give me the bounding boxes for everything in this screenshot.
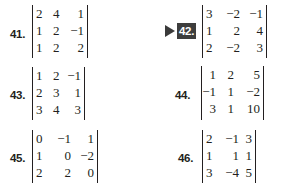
- matrix-cell: −1: [70, 22, 84, 40]
- matrix-cell: 10: [247, 100, 260, 118]
- matrix-row: 1 1 1: [203, 147, 255, 165]
- matrix-cell: −4: [225, 164, 239, 182]
- matrix-cell: 2: [228, 66, 235, 84]
- matrix-row: 2 2 0: [33, 164, 97, 182]
- problem-number: 46.: [178, 152, 193, 164]
- matrix-cell: 0: [65, 147, 72, 165]
- matrix-row: 2 4 1: [33, 5, 87, 23]
- matrix-cell: 2: [206, 130, 213, 148]
- determinant-matrix: 0 −1 1 1 0 −2 2 2 0: [32, 130, 98, 183]
- matrix-cell: 3: [246, 130, 253, 148]
- matrix-cell: 1: [246, 147, 253, 165]
- determinant-matrix: 2 4 1 1 2 −1 1 2 2: [32, 5, 88, 58]
- matrix-row: 3 −2 −1: [203, 5, 266, 23]
- matrix-row: 3 1 10: [202, 100, 263, 118]
- matrix-cell: 2: [206, 39, 213, 57]
- matrix-cell: 1: [206, 147, 213, 165]
- matrix-cell: 3: [206, 164, 213, 182]
- matrix-cell: 5: [254, 66, 261, 84]
- matrix-cell: 1: [36, 39, 43, 57]
- matrix-cell: −1: [57, 130, 71, 148]
- matrix-cell: 2: [53, 67, 60, 85]
- matrix-cell: 2: [36, 5, 43, 23]
- matrix-cell: 3: [257, 39, 264, 57]
- matrix-cell: 1: [210, 66, 217, 84]
- matrix-cell: 2: [36, 164, 43, 182]
- matrix-cell: −2: [246, 83, 260, 101]
- matrix-cell: −1: [202, 83, 216, 101]
- matrix-row: 1 2 −1: [33, 22, 87, 40]
- matrix-cell: 4: [257, 22, 264, 40]
- matrix-cell: 1: [75, 84, 82, 102]
- pointer-arrow-icon: [165, 25, 175, 37]
- matrix-row: 2 −1 3: [203, 130, 255, 148]
- matrix-cell: 3: [210, 100, 217, 118]
- matrix-cell: −1: [67, 67, 81, 85]
- matrix-cell: 3: [36, 101, 43, 119]
- matrix-cell: 2: [36, 84, 43, 102]
- determinant-matrix: 1 2 −1 2 3 1 3 4 3: [32, 67, 85, 120]
- matrix-row: 1 2 2: [33, 39, 87, 57]
- problem-number: 41.: [10, 28, 25, 40]
- matrix-row: 3 −4 5: [203, 164, 255, 182]
- matrix-cell: −2: [80, 147, 94, 165]
- matrix-row: 1 2 4: [203, 22, 266, 40]
- matrix-cell: 4: [53, 5, 60, 23]
- problem-number: 43.: [10, 89, 25, 101]
- matrix-cell: 2: [234, 22, 241, 40]
- determinant-matrix: 3 −2 −1 1 2 4 2 −2 3: [202, 5, 267, 58]
- matrix-row: 0 −1 1: [33, 130, 97, 148]
- matrix-row: 1 0 −2: [33, 147, 97, 165]
- matrix-cell: 1: [206, 22, 213, 40]
- matrix-cell: 2: [78, 39, 85, 57]
- determinant-matrix: 1 2 5 −1 1 −2 3 1 10: [201, 66, 264, 120]
- matrix-cell: −1: [249, 5, 263, 23]
- problem-number: 44.: [175, 89, 190, 101]
- matrix-cell: −1: [225, 130, 239, 148]
- determinant-matrix: 2 −1 3 1 1 1 3 −4 5: [202, 130, 256, 183]
- matrix-cell: 4: [53, 101, 60, 119]
- matrix-cell: 3: [53, 84, 60, 102]
- matrix-cell: 1: [228, 83, 235, 101]
- matrix-row: 1 2 5: [202, 66, 263, 84]
- problem-number-badge: 42.: [177, 23, 196, 39]
- matrix-cell: 1: [36, 22, 43, 40]
- matrix-cell: 2: [53, 22, 60, 40]
- matrix-cell: −2: [226, 39, 240, 57]
- matrix-row: 2 3 1: [33, 84, 84, 102]
- matrix-cell: 1: [36, 147, 43, 165]
- matrix-cell: 1: [36, 67, 43, 85]
- matrix-cell: 0: [88, 164, 95, 182]
- problem-number: 45.: [10, 152, 25, 164]
- matrix-cell: 2: [65, 164, 72, 182]
- matrix-cell: 2: [53, 39, 60, 57]
- matrix-cell: 1: [88, 130, 95, 148]
- matrix-cell: 3: [206, 5, 213, 23]
- matrix-cell: 5: [246, 164, 253, 182]
- matrix-cell: 1: [228, 100, 235, 118]
- matrix-cell: 1: [78, 5, 85, 23]
- matrix-row: 3 4 3: [33, 101, 84, 119]
- matrix-cell: −2: [226, 5, 240, 23]
- matrix-cell: 0: [36, 130, 43, 148]
- matrix-row: 1 2 −1: [33, 67, 84, 85]
- matrix-row: 2 −2 3: [203, 39, 266, 57]
- matrix-cell: 1: [233, 147, 240, 165]
- matrix-cell: 3: [75, 101, 82, 119]
- matrix-row: −1 1 −2: [202, 83, 263, 101]
